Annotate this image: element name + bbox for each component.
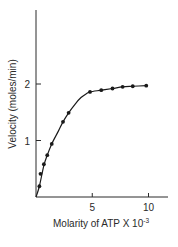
y-ticks: 12 (24, 79, 41, 147)
chart: 12 510 Velocity (moles/min) Molarity of … (0, 0, 178, 247)
data-point (131, 84, 135, 88)
data-point (50, 142, 54, 146)
x-axis-label: Molarity of ATP X 10-3 (53, 217, 149, 229)
x-tick-label: 10 (143, 202, 155, 213)
data-point (37, 184, 41, 188)
data-point (67, 111, 71, 115)
data-points (37, 84, 148, 188)
data-point (42, 162, 46, 166)
y-tick-label: 1 (24, 136, 30, 147)
x-axis-label-exponent: -3 (143, 217, 149, 224)
data-point (99, 88, 103, 92)
data-point (144, 84, 148, 88)
data-point (45, 153, 49, 157)
x-tick-label: 5 (89, 202, 95, 213)
y-tick-label: 2 (24, 79, 30, 90)
data-point (39, 172, 43, 176)
fit-curve (36, 86, 146, 197)
axes (36, 10, 168, 197)
data-point (61, 120, 65, 124)
data-point (88, 90, 92, 94)
y-axis-label: Velocity (moles/min) (7, 59, 18, 148)
x-axis-label-text: Molarity of ATP X 10 (53, 218, 144, 229)
data-point (111, 87, 115, 91)
x-ticks: 510 (89, 193, 154, 213)
data-point (121, 85, 125, 89)
